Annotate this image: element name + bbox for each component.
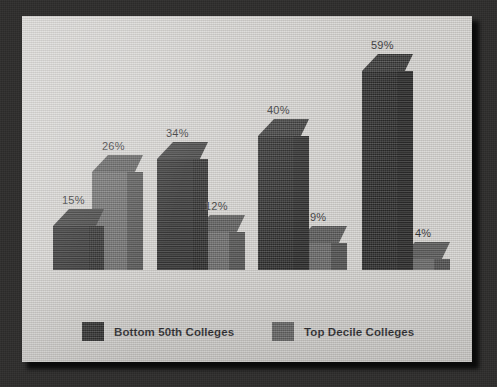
bar-bottom-50th-2 xyxy=(157,142,208,270)
value-label-top-decile-4: 4% xyxy=(415,227,431,239)
bar-top-face xyxy=(53,209,104,226)
bar-side-face xyxy=(397,71,413,270)
bar-front-face xyxy=(258,136,293,270)
bar-side-face xyxy=(293,136,309,270)
bar-top-face xyxy=(258,119,309,136)
value-label-bottom-50th-1: 15% xyxy=(62,194,85,206)
bar-bottom-50th-1 xyxy=(53,209,104,270)
bar-bottom-50th-4 xyxy=(362,54,413,270)
bar-top-face xyxy=(92,155,143,172)
bar-top-face xyxy=(157,142,208,159)
legend-item-bottom-50th[interactable]: Bottom 50th Colleges xyxy=(82,322,234,341)
chart-screenshot: 15% 26% xyxy=(0,0,497,387)
bar-bottom-50th-3 xyxy=(258,119,309,270)
value-label-top-decile-3: 9% xyxy=(310,211,326,223)
value-label-top-decile-1: 26% xyxy=(102,140,125,152)
bar-side-face xyxy=(331,243,347,270)
legend-swatch-bottom-50th xyxy=(82,322,104,341)
bar-side-face xyxy=(127,172,143,270)
bar-front-face xyxy=(53,226,88,270)
bar-side-face xyxy=(229,232,245,270)
value-label-bottom-50th-3: 40% xyxy=(267,104,290,116)
legend-label-top-decile: Top Decile Colleges xyxy=(304,326,414,338)
legend-label-bottom-50th: Bottom 50th Colleges xyxy=(114,326,234,338)
value-label-bottom-50th-2: 34% xyxy=(166,127,189,139)
bar-top-face xyxy=(362,54,413,71)
chart-legend: Bottom 50th Colleges Top Decile Colleges xyxy=(22,312,472,352)
value-label-top-decile-2: 12% xyxy=(205,200,228,212)
legend-item-top-decile[interactable]: Top Decile Colleges xyxy=(272,322,414,341)
bar-side-face xyxy=(192,159,208,270)
legend-swatch-top-decile xyxy=(272,322,294,341)
bar-front-face xyxy=(157,159,192,270)
bar-side-face xyxy=(88,226,104,270)
bar-front-face xyxy=(362,71,397,270)
value-label-bottom-50th-4: 59% xyxy=(371,39,394,51)
chart-panel: 15% 26% xyxy=(22,16,472,362)
bar-side-face xyxy=(434,259,450,270)
plot-area: 15% 26% xyxy=(22,16,472,362)
